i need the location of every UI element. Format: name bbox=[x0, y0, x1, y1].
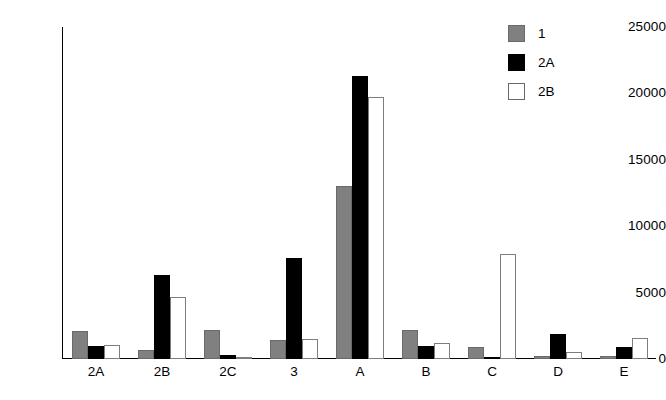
bar bbox=[600, 356, 616, 359]
x-tick-label: B bbox=[396, 364, 456, 379]
bar bbox=[418, 346, 434, 359]
legend-item: 2B bbox=[508, 80, 555, 103]
bar bbox=[500, 254, 516, 359]
bar bbox=[220, 355, 236, 359]
chart-legend: 12A2B bbox=[508, 22, 555, 109]
bar bbox=[468, 347, 484, 359]
bar bbox=[104, 345, 120, 359]
bar bbox=[138, 350, 154, 359]
bar-group bbox=[600, 27, 648, 359]
bar bbox=[88, 346, 104, 359]
legend-swatch-icon bbox=[508, 25, 525, 42]
x-tick-label: 3 bbox=[264, 364, 324, 379]
bar-group bbox=[138, 27, 186, 359]
bar bbox=[616, 347, 632, 359]
legend-swatch-icon bbox=[508, 54, 525, 71]
bar-chart: 0500010000150002000025000 2A2B2C3ABCDE 1… bbox=[0, 0, 666, 400]
legend-item: 1 bbox=[508, 22, 555, 45]
bar-group bbox=[402, 27, 450, 359]
x-tick-label: 2C bbox=[198, 364, 258, 379]
bar bbox=[170, 297, 186, 359]
x-tick-label: D bbox=[528, 364, 588, 379]
bar bbox=[204, 330, 220, 359]
bar-group bbox=[336, 27, 384, 359]
legend-swatch-icon bbox=[508, 83, 525, 100]
bar bbox=[270, 340, 286, 359]
bar bbox=[154, 275, 170, 359]
x-tick-label: 2A bbox=[66, 364, 126, 379]
legend-item: 2A bbox=[508, 51, 555, 74]
bar-group bbox=[270, 27, 318, 359]
x-tick-label: E bbox=[594, 364, 654, 379]
x-tick-label: C bbox=[462, 364, 522, 379]
bar bbox=[286, 258, 302, 359]
bar bbox=[484, 357, 500, 359]
bar bbox=[336, 186, 352, 359]
bar bbox=[534, 356, 550, 359]
bar bbox=[566, 352, 582, 359]
x-tick-label: 2B bbox=[132, 364, 192, 379]
bar bbox=[434, 343, 450, 359]
legend-label: 2B bbox=[538, 85, 555, 99]
bar bbox=[352, 76, 368, 359]
legend-label: 1 bbox=[538, 27, 546, 41]
bar bbox=[302, 339, 318, 359]
bar bbox=[72, 331, 88, 359]
legend-label: 2A bbox=[538, 56, 555, 70]
bar bbox=[236, 357, 252, 359]
bar bbox=[402, 330, 418, 359]
bar-group bbox=[204, 27, 252, 359]
bar bbox=[368, 97, 384, 359]
bar bbox=[550, 334, 566, 359]
plot-area bbox=[62, 27, 656, 359]
bar bbox=[632, 338, 648, 359]
bar-group bbox=[72, 27, 120, 359]
x-tick-label: A bbox=[330, 364, 390, 379]
